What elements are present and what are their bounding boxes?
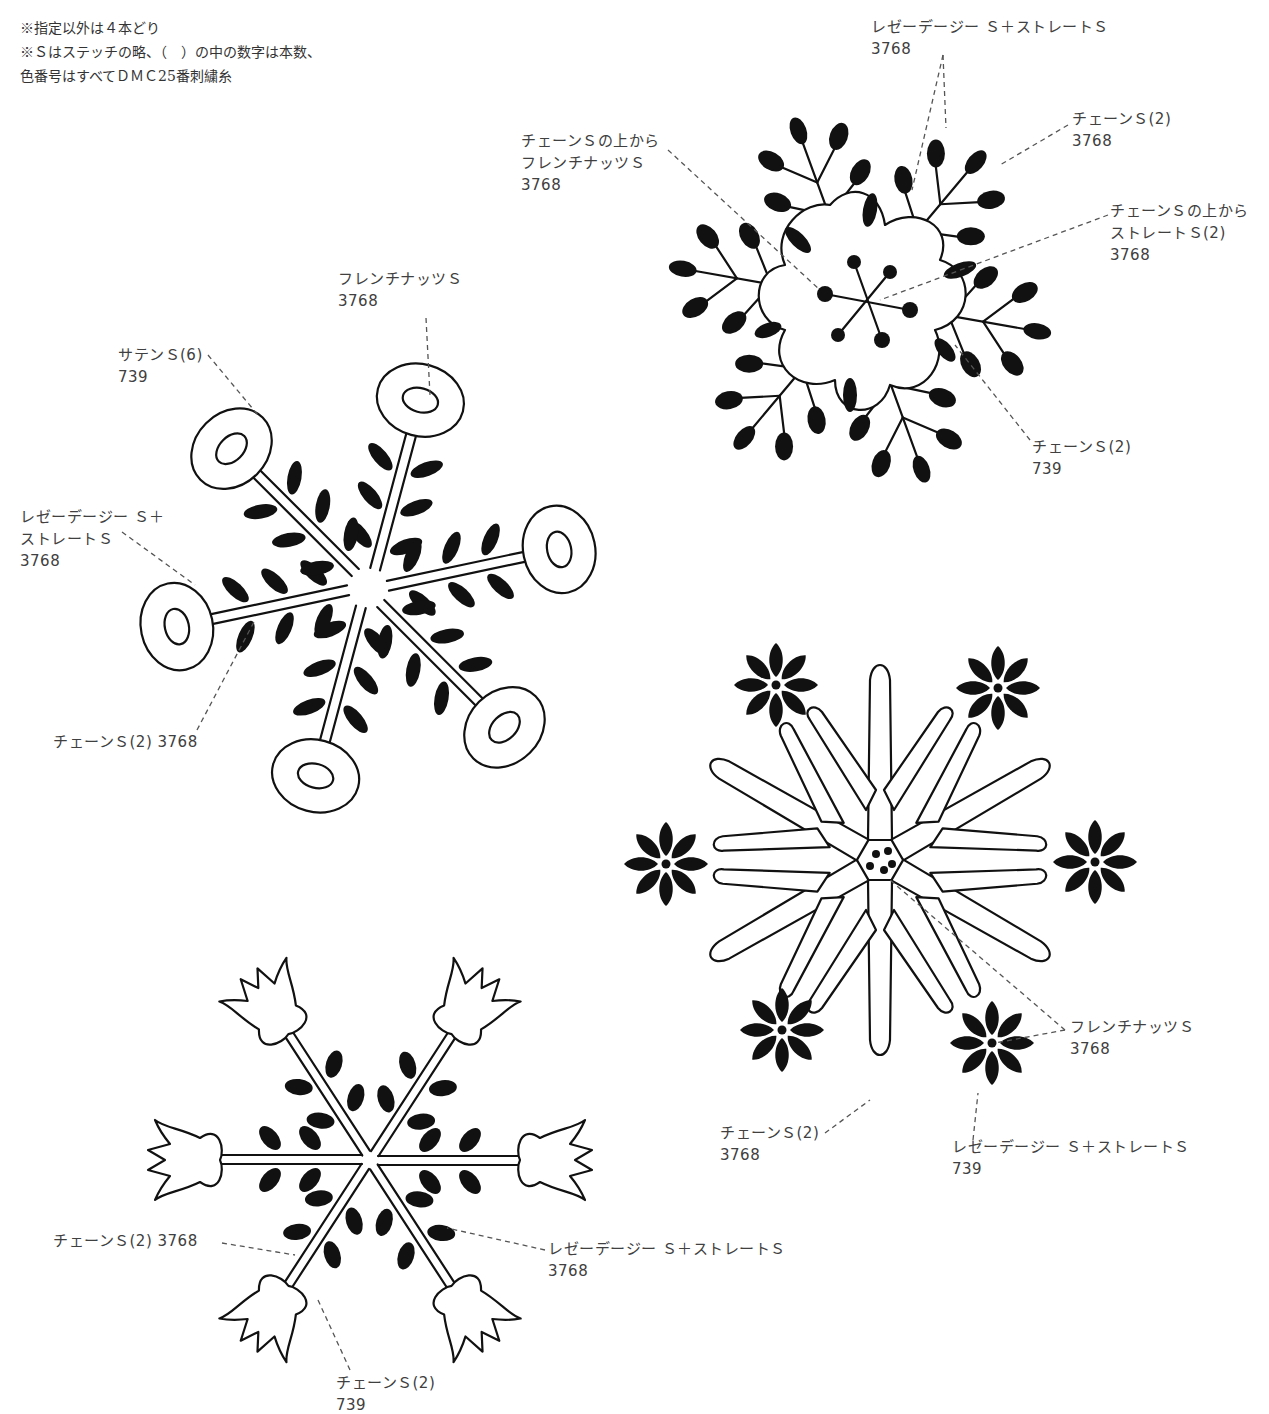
snowflake-spikes-daisies	[675, 665, 1085, 1055]
embroidery-diagrams	[0, 0, 1269, 1414]
label-chain-2-739-bl: チェーンＳ(2) 739	[336, 1372, 435, 1414]
label-lazy-daisy-3768-bl: レゼーデージー Ｓ＋ストレートＳ 3768	[548, 1238, 786, 1282]
label-french-knot-3768-br: フレンチナッツＳ 3768	[1070, 1016, 1194, 1060]
snowflake-tulips	[148, 952, 592, 1368]
label-lazy-daisy-straight-3768: レゼーデージー Ｓ＋ ストレートＳ 3768	[20, 506, 165, 572]
label-straight-on-chain: チェーンＳの上から ストレートＳ(2) 3768	[1110, 200, 1249, 266]
snowflake-rings	[132, 354, 603, 822]
label-french-knot-on-chain: チェーンＳの上から フレンチナッツＳ 3768	[521, 130, 660, 196]
label-chain-2-3768-bl: チェーンＳ(2) 3768	[53, 1230, 198, 1252]
label-lazy-daisy-739: レゼーデージー Ｓ＋ストレートＳ 739	[952, 1136, 1190, 1180]
label-lazy-daisy-3768: レゼーデージー Ｓ＋ストレートＳ 3768	[871, 16, 1109, 60]
snowflake-flower-branches	[658, 97, 1061, 503]
label-satin-6-739: サテンＳ(6) 739	[118, 344, 203, 388]
label-french-knot-3768: フレンチナッツＳ 3768	[338, 268, 462, 312]
label-chain-2-3768-left: チェーンＳ(2) 3768	[53, 731, 198, 753]
label-chain-2-739: チェーンＳ(2) 739	[1032, 436, 1131, 480]
label-chain-2-3768: チェーンＳ(2) 3768	[1072, 108, 1171, 152]
label-chain-2-3768-br: チェーンＳ(2) 3768	[720, 1122, 819, 1166]
